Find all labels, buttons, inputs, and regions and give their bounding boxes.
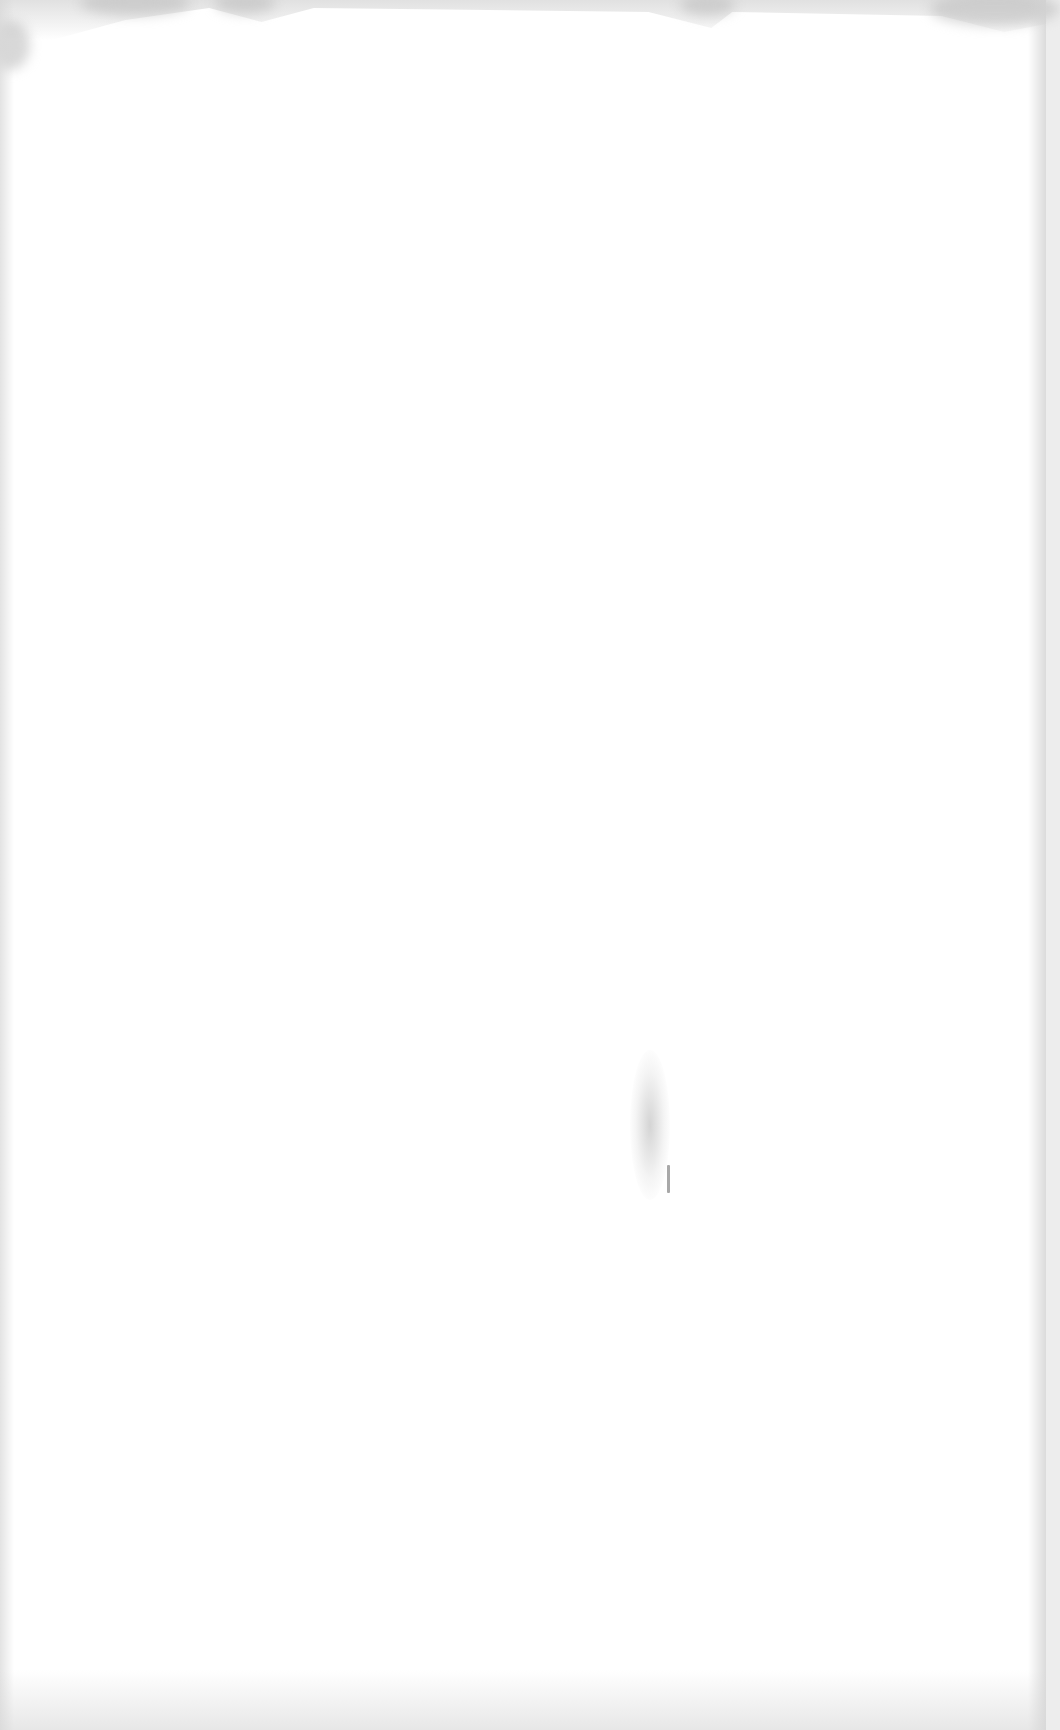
scan-edge-right xyxy=(1028,0,1046,1730)
smudge-stroke xyxy=(667,1165,670,1193)
scan-edge-bottom xyxy=(0,1670,1046,1730)
smudge-mark xyxy=(630,1050,670,1200)
scan-edge-left xyxy=(0,0,14,1730)
